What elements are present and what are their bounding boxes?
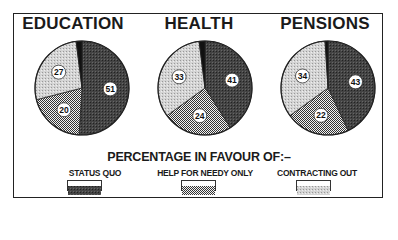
pie-data-label: 20 <box>59 105 69 115</box>
pie-data-label: 34 <box>298 71 308 81</box>
pie-data-label: 24 <box>195 111 205 121</box>
legend-swatch-status-quo <box>67 180 102 191</box>
pie-data-label: 51 <box>105 84 115 94</box>
pie-data-label: 33 <box>174 72 184 82</box>
legend-swatch-help-for-needy <box>181 180 216 191</box>
pie-data-label: 27 <box>54 67 64 77</box>
pie-data-label: 22 <box>316 110 326 120</box>
legend-label-status-quo: STATUS QUO <box>50 168 140 178</box>
pie-data-label: 41 <box>227 75 237 85</box>
pie-education: 512027 <box>35 41 129 135</box>
legend-swatch-contracting-out <box>296 180 331 191</box>
legend-caption: PERCENTAGE IN FAVOUR OF:– <box>0 150 398 164</box>
pie-data-label: 43 <box>351 77 361 87</box>
legend-label-contracting-out: CONTRACTING OUT <box>262 168 372 178</box>
legend-label-help-for-needy: HELP FOR NEEDY ONLY <box>140 168 270 178</box>
pie-health: 412433 <box>158 41 252 135</box>
pie-pensions: 432234 <box>281 41 375 135</box>
